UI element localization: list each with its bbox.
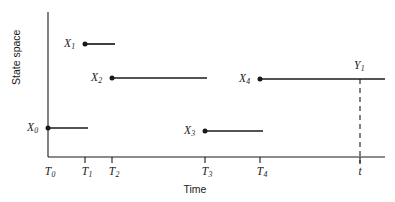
tick-label-T1: T1 <box>82 166 92 178</box>
tick-marks-group <box>85 157 360 163</box>
state-space-time-figure: State space Time T0T1T2T3T4tX0X1X2X3X4Y1 <box>0 0 395 202</box>
state-start-dot-X2 <box>110 76 115 81</box>
y-axis-title: State space <box>11 30 22 85</box>
tick-label-T3: T3 <box>202 166 212 178</box>
state-start-dot-X1 <box>83 42 88 47</box>
x-axis-title: Time <box>184 184 207 195</box>
tick-label-T0: T0 <box>45 166 55 178</box>
state-label-X0: X0 <box>27 122 38 134</box>
tick-label-t: t <box>358 166 361 178</box>
tick-label-T2: T2 <box>109 166 119 178</box>
plot-canvas <box>0 0 395 202</box>
state-start-dot-X4 <box>258 77 263 82</box>
state-label-X2: X2 <box>91 72 102 84</box>
tick-label-T4: T4 <box>257 166 267 178</box>
state-label-Y1: Y1 <box>354 60 364 72</box>
state-start-dot-X3 <box>203 129 208 134</box>
state-label-X4: X4 <box>239 73 250 85</box>
state-label-X3: X3 <box>184 125 195 137</box>
state-start-dot-X0 <box>46 126 51 131</box>
state-label-X1: X1 <box>64 38 75 50</box>
state-segments-group <box>46 42 386 134</box>
